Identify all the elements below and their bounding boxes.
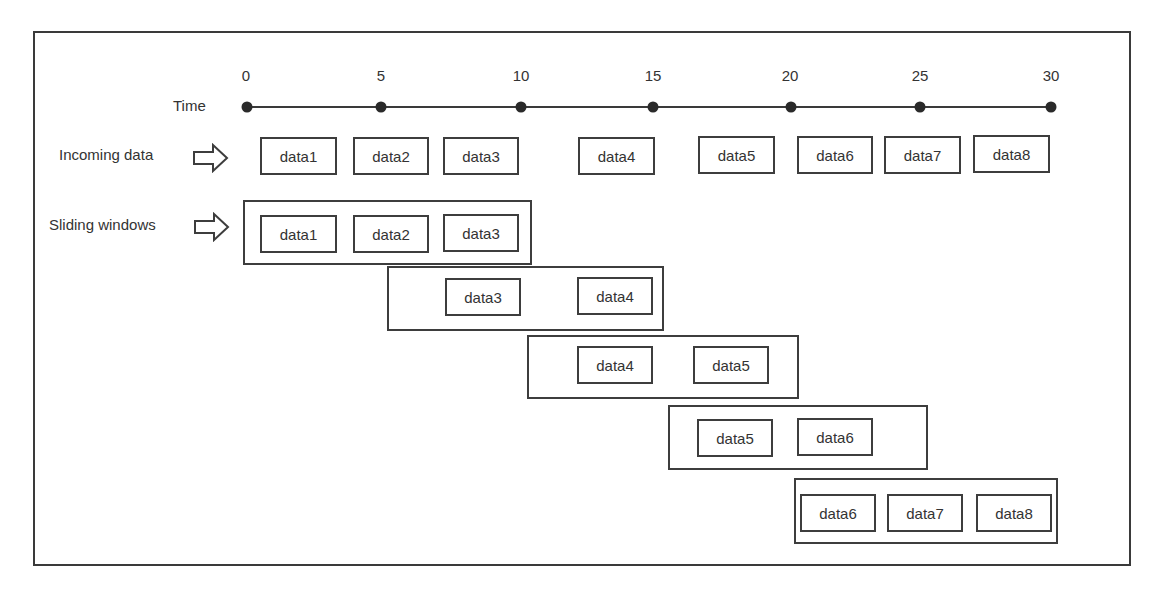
window-2-data-box-2: data4 (577, 277, 653, 315)
time-label: Time (173, 97, 206, 114)
window-3-data-box-2: data5 (693, 346, 769, 384)
time-point-20 (786, 102, 797, 113)
incoming-data-label: Incoming data (59, 146, 153, 163)
sliding-windows-label: Sliding windows (49, 216, 156, 233)
tick-label-20: 20 (782, 67, 799, 84)
time-point-30 (1046, 102, 1057, 113)
tick-label-30: 30 (1043, 67, 1060, 84)
window-1-data-box-3: data3 (443, 214, 519, 252)
time-point-0 (242, 102, 253, 113)
incoming-data-box-6: data6 (797, 136, 873, 174)
incoming-data-box-7: data7 (884, 136, 961, 174)
tick-label-10: 10 (513, 67, 530, 84)
incoming-data-box-8: data8 (973, 135, 1050, 173)
incoming-data-box-3: data3 (443, 137, 519, 175)
window-5-data-box-1: data6 (800, 494, 876, 532)
time-point-10 (516, 102, 527, 113)
incoming-data-box-4: data4 (578, 137, 655, 175)
tick-label-5: 5 (377, 67, 385, 84)
incoming-data-box-5: data5 (698, 136, 775, 174)
tick-label-15: 15 (645, 67, 662, 84)
window-5-data-box-2: data7 (887, 494, 963, 532)
window-5-data-box-3: data8 (976, 494, 1052, 532)
window-2-data-box-1: data3 (445, 278, 521, 316)
incoming-data-box-2: data2 (353, 137, 429, 175)
incoming-data-box-1: data1 (260, 137, 337, 175)
window-4-data-box-2: data6 (797, 418, 873, 456)
window-1-data-box-2: data2 (353, 215, 429, 253)
window-1-data-box-1: data1 (260, 215, 337, 253)
time-point-25 (915, 102, 926, 113)
tick-label-0: 0 (242, 67, 250, 84)
window-3-data-box-1: data4 (577, 346, 653, 384)
window-4-data-box-1: data5 (697, 419, 773, 457)
hollow-right-arrow-icon (193, 143, 229, 173)
time-point-5 (376, 102, 387, 113)
tick-label-25: 25 (912, 67, 929, 84)
time-point-15 (648, 102, 659, 113)
hollow-right-arrow-icon (194, 212, 230, 242)
